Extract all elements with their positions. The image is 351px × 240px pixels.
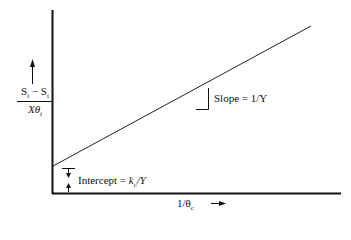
numerator-right-sub: i [47, 92, 49, 100]
y-label-denominator: Xθi [17, 102, 53, 118]
intercept-arrows-icon [62, 169, 75, 193]
denominator-sub: i [40, 110, 42, 118]
slope-label: Slope = 1/Y [214, 93, 267, 104]
y-direction-arrow-icon [30, 59, 35, 84]
denominator-text: Xθ [28, 103, 40, 115]
intercept-prefix: Intercept = [78, 174, 129, 186]
intercept-suffix: /Y [137, 174, 146, 186]
x-label-text: 1/θ [177, 197, 191, 209]
numerator-left-sub: i [27, 92, 29, 100]
x-axis-label: 1/θc [177, 198, 194, 211]
x-direction-arrow-icon [211, 201, 226, 206]
slope-triangle [196, 88, 209, 110]
intercept-label: Intercept = kc/Y [78, 175, 146, 189]
numerator-operator: − [32, 85, 38, 97]
regression-line [53, 26, 311, 166]
x-label-sub: c [191, 204, 194, 211]
y-axis-label: Si − Si Xθi [17, 86, 53, 118]
y-label-numerator: Si − Si [17, 86, 53, 102]
